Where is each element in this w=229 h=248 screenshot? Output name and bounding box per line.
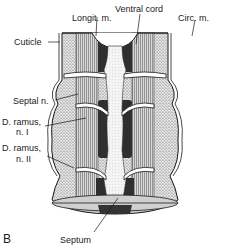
septum — [52, 195, 178, 214]
label-cuticle: Cuticle — [14, 37, 42, 47]
label-ventral-cord: Ventral cord — [115, 4, 163, 14]
label-longit-m: Longit. m. — [72, 13, 112, 23]
label-septum: Septum — [60, 235, 91, 245]
label-d-ramus-1-line2: n. I — [16, 127, 29, 137]
label-d-ramus-2-line1: D. ramus, — [2, 143, 41, 153]
label-d-ramus-2-line2: n. II — [16, 154, 31, 164]
panel-letter: B — [3, 232, 11, 246]
label-d-ramus-1-line1: D. ramus, — [2, 117, 41, 127]
label-circ-m: Circ. m. — [178, 13, 209, 23]
ventral-nerve-cord — [104, 46, 126, 205]
label-septal-n: Septal n. — [13, 96, 49, 106]
